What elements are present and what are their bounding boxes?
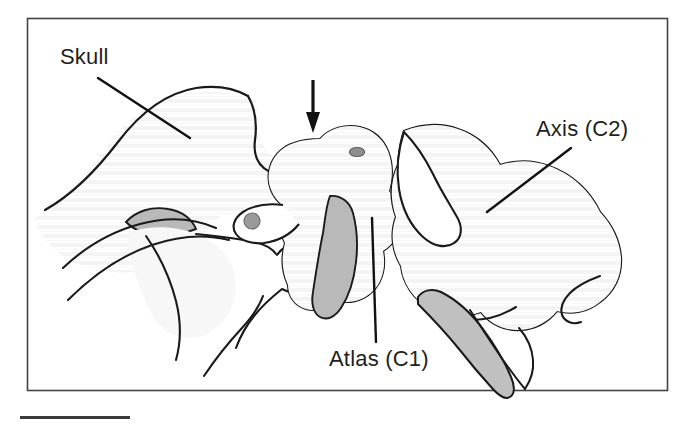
label-skull: Skull [60,44,109,70]
anterior-arch-arrow [306,80,320,133]
foramen-marker-atlas [350,148,365,157]
anatomy-figure: Skull Axis (C2) Atlas (C1) [0,0,691,426]
mandible-ghost-region [128,227,236,338]
axis-spinous-tip-edge [519,328,533,389]
scale-bar [20,416,130,419]
foramen-marker-posterior [244,213,260,229]
label-axis-c2: Axis (C2) [536,116,628,142]
label-atlas-c1: Atlas (C1) [329,346,429,372]
